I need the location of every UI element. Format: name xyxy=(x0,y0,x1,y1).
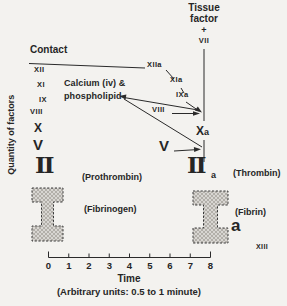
factor-iia-sub: a xyxy=(211,170,216,180)
y-axis-label: Quantity of factors xyxy=(7,85,16,185)
x-axis-sublabel: (Arbitrary units: 0.5 to 1 minute) xyxy=(28,287,230,297)
factor-xa-sub: a xyxy=(204,127,209,137)
contact-to-xiia-line xyxy=(29,64,145,69)
axis-tick-7: 7 xyxy=(184,261,196,271)
prothrombin-label: (Prothrombin) xyxy=(82,173,142,182)
axis-tick-5: 5 xyxy=(144,261,156,271)
x-axis-label: Time xyxy=(104,274,154,285)
axis-tick-1: 1 xyxy=(63,261,75,271)
factor-vii-label: VII xyxy=(179,37,229,45)
fibrinogen-beam-shape xyxy=(32,188,63,241)
axis-tick-3: 3 xyxy=(103,261,115,271)
factor-xia-label: XIa xyxy=(170,76,182,84)
factor-x-label: X xyxy=(34,122,42,135)
fibrin-a-subscript: a xyxy=(231,217,240,235)
cofactor-label-line2: phospholipid xyxy=(64,92,122,101)
axis-tick-4: 4 xyxy=(124,261,136,271)
plus-sign: + xyxy=(179,26,229,35)
contact-label: Contact xyxy=(30,45,67,56)
factor-va-label: V xyxy=(159,138,169,154)
factor-iia-main: II xyxy=(187,151,205,178)
factor-xii-label: XII xyxy=(34,66,44,74)
cofactor-label-line1: Calcium (iv) & xyxy=(64,79,125,88)
thrombin-label: (Thrombin) xyxy=(233,169,281,178)
factor-xi-label: XI xyxy=(37,81,45,89)
tissue-factor-label-line1: Tissue xyxy=(179,3,229,14)
factor-viiia-label: VIII xyxy=(152,106,165,114)
factor-xiii-label: XIII xyxy=(256,243,268,250)
tissue-factor-label-line2: factor xyxy=(179,14,229,25)
factor-ii-label: II xyxy=(35,153,53,177)
factor-iia-label: II a xyxy=(187,153,214,177)
axis-tick-0: 0 xyxy=(43,261,55,271)
fibrinogen-label: (Fibrinogen) xyxy=(84,205,137,214)
factor-xa-label: Xa xyxy=(196,122,209,139)
coagulation-cascade-figure: Quantity of factors Tissue factor + VII … xyxy=(0,0,287,306)
factor-ixa-label: IXa xyxy=(176,91,188,99)
factor-viii-label: VIII xyxy=(30,108,43,116)
factor-ix-label: IX xyxy=(39,96,47,104)
viii-arrowhead xyxy=(193,111,200,115)
factor-xa-main: X xyxy=(196,124,204,138)
axis-tick-6: 6 xyxy=(164,261,176,271)
axis-tick-8: 8 xyxy=(205,261,217,271)
time-axis xyxy=(49,252,211,258)
fibrin-beam-shape xyxy=(193,191,228,243)
axis-tick-2: 2 xyxy=(83,261,95,271)
factor-xiia-label: XIIa xyxy=(147,61,162,69)
